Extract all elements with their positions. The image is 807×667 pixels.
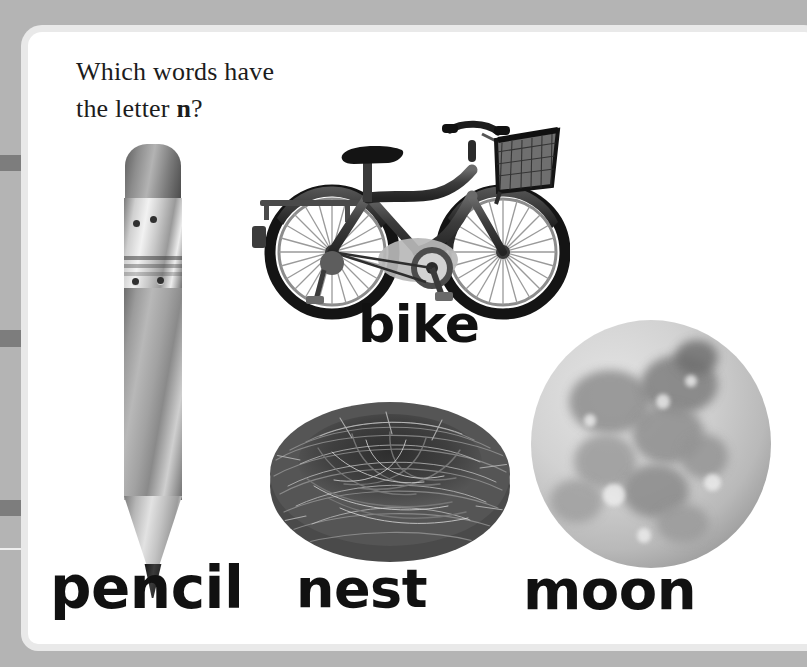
gutter-mark-1 [0, 155, 22, 171]
ferrule-ring [124, 256, 182, 260]
lunar-crater [685, 375, 697, 387]
gutter-line [0, 548, 22, 550]
saddle [342, 146, 404, 164]
ferrule-crimp [157, 277, 164, 284]
bicycle-frame [332, 158, 503, 252]
lunar-mare [550, 479, 603, 524]
prompt-target-letter: n [176, 94, 191, 123]
pencil-eraser [125, 144, 181, 202]
word-label-moon: moon [523, 557, 696, 622]
lunar-crater [704, 474, 721, 491]
prompt-line-1: Which words have [76, 54, 406, 91]
lunar-crater [637, 528, 651, 543]
worksheet-page: Which words have the letter n? [0, 0, 807, 667]
lunar-mare [675, 340, 718, 375]
word-label-nest: nest [296, 557, 427, 620]
rear-reflector [252, 226, 266, 248]
ferrule-ring [124, 264, 182, 268]
moon-disc [531, 320, 771, 568]
ferrule-crimp [133, 220, 140, 227]
gutter-mark-2 [0, 330, 22, 347]
ferrule-ring [124, 272, 182, 276]
lunar-mare [656, 504, 709, 544]
ferrule-crimp [150, 216, 157, 223]
moon-image [531, 320, 771, 568]
word-label-pencil: pencil [50, 554, 243, 622]
nest-image [266, 390, 514, 568]
worksheet-card: Which words have the letter n? [28, 32, 807, 644]
lunar-mare [680, 434, 728, 479]
pencil-ferrule [124, 198, 182, 290]
bicycle-image [250, 100, 570, 325]
lunar-crater [603, 484, 625, 506]
lunar-crater [584, 414, 596, 426]
ferrule-crimp [132, 278, 139, 285]
prompt-line-2-text: the letter [76, 94, 176, 123]
seat-post [363, 162, 372, 202]
word-label-bike: bike [358, 294, 480, 354]
pencil-image [116, 144, 190, 564]
pencil-barrel [124, 288, 182, 500]
prompt-line-2-suffix: ? [191, 94, 203, 123]
gutter-mark-3 [0, 500, 22, 516]
